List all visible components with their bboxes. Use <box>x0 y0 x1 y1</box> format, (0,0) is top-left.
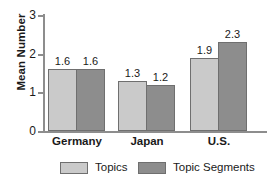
y-tick-label-2-wrap: 2 <box>10 48 36 60</box>
bar-japan-topic-segments <box>146 85 175 131</box>
bar-germany-topic-segments <box>76 69 105 131</box>
legend-item-topics: Topics <box>60 160 128 176</box>
y-tick-label-1-wrap: 1 <box>10 86 36 98</box>
y-tick-label-1: 1 <box>14 86 36 98</box>
bar-value-japan-topics: 1.3 <box>118 68 147 79</box>
y-tick-label-0-wrap: 0 <box>10 125 36 137</box>
y-tick-label-2: 2 <box>14 48 36 60</box>
bar-germany-topics <box>48 69 77 131</box>
x-axis-line <box>43 131 267 133</box>
bar-value-us-topics: 1.9 <box>190 45 219 56</box>
category-label-germany: Germany <box>41 135 113 147</box>
y-tick-mark-0 <box>38 131 44 133</box>
bar-us-topic-segments <box>218 42 247 131</box>
legend-label-topics: Topics <box>95 162 128 174</box>
y-tick-label-0: 0 <box>14 125 36 137</box>
y-tick-label-3: 3 <box>14 9 36 21</box>
legend-swatch-topics-icon <box>60 162 88 174</box>
category-label-japan: Japan <box>111 135 183 147</box>
chart-legend: Topics Topic Segments <box>0 160 272 182</box>
category-label-us: U.S. <box>183 135 255 147</box>
legend-swatch-topic-segments-icon <box>138 162 166 174</box>
bar-value-us-topic-segments: 2.3 <box>218 29 247 40</box>
bar-japan-topics <box>118 81 147 131</box>
bar-value-germany-topics: 1.6 <box>48 56 77 67</box>
y-tick-label-3-wrap: 3 <box>10 9 36 21</box>
legend-item-topic-segments: Topic Segments <box>138 160 255 176</box>
bar-chart: Mean Number 3 2 1 0 1.6 1.6 1.3 1.2 1.9 … <box>0 0 272 188</box>
legend-label-topic-segments: Topic Segments <box>173 162 255 174</box>
bar-value-germany-topic-segments: 1.6 <box>76 56 105 67</box>
bar-value-japan-topic-segments: 1.2 <box>146 72 175 83</box>
bar-us-topics <box>190 58 219 131</box>
